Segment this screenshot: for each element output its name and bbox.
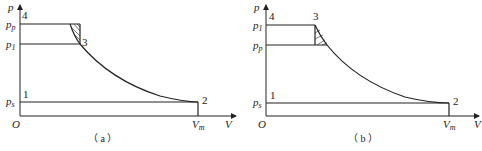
point-4-label: 4 [22,9,28,21]
vm-label: Vm [443,118,456,132]
point-1-label: 1 [270,89,276,101]
point-2-label: 2 [453,95,459,107]
point-3-label: 3 [313,10,319,22]
x-axis-label: V [225,118,233,130]
panel-a: p 4 pp p1 3 1 ps 2 O Vm V （ a ） [5,1,236,144]
ps-label: ps [5,95,15,109]
pp-label: pp [5,18,16,32]
point-3-label: 3 [82,36,88,48]
p1-label: p1 [5,38,16,52]
x-axis-label: V [474,118,482,130]
pp-label: pp [252,39,263,53]
caption-b: （ b ） [348,133,378,144]
y-axis-label: p [253,1,260,13]
point-1-label: 1 [23,88,29,100]
vm-label: Vm [192,118,205,132]
compression-curve [315,25,449,103]
origin-label: O [12,118,20,130]
panel-b: p 4 3 p1 pp 1 ps 2 O Vm V （ b ） [252,1,482,144]
origin-label: O [258,118,266,130]
y-axis-label: p [7,1,14,13]
point-2-label: 2 [202,94,208,106]
point-4-label: 4 [269,10,275,22]
ps-label: ps [252,96,262,110]
pv-diagram-figure: p 4 pp p1 3 1 ps 2 O Vm V （ a ） p 4 3 p1… [0,0,482,151]
compression-curve [70,24,198,102]
p1-label: p1 [252,19,263,33]
caption-a: （ a ） [88,133,117,144]
